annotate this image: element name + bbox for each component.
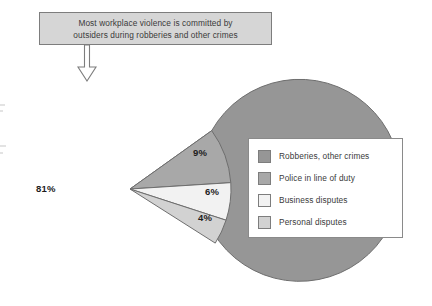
pie-slice-police-in-line-of-duty: [130, 131, 231, 189]
pie-label-4-percent: 4%: [198, 212, 212, 223]
legend-item-robberies-other-crimes: Robberies, other crimes: [258, 145, 402, 167]
legend-label: Police in line of duty: [279, 173, 355, 183]
legend-swatch-icon: [258, 172, 271, 185]
pie-chart-figure: Most workplace violence is committed by …: [0, 0, 432, 306]
legend-item-police-in-line-of-duty: Police in line of duty: [258, 167, 402, 189]
legend-swatch-icon: [258, 150, 271, 163]
legend-item-business-disputes: Business disputes: [258, 189, 402, 211]
legend-label: Personal disputes: [279, 217, 347, 227]
legend-label: Robberies, other crimes: [279, 151, 369, 161]
legend-swatch-icon: [258, 216, 271, 229]
legend-item-personal-disputes: Personal disputes: [258, 211, 402, 233]
legend-label: Business disputes: [279, 195, 348, 205]
chart-legend: Robberies, other crimes Police in line o…: [248, 138, 403, 238]
pie-label-6-percent: 6%: [205, 186, 219, 197]
pie-label-81-percent: 81%: [36, 183, 56, 194]
pie-label-9-percent: 9%: [193, 147, 207, 158]
legend-swatch-icon: [258, 194, 271, 207]
